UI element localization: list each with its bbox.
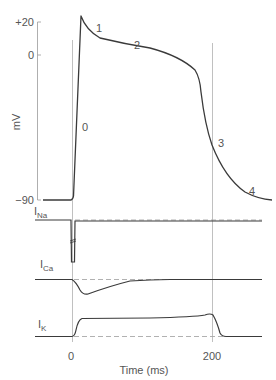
ica-trace bbox=[35, 280, 262, 295]
phase-label-2: 2 bbox=[134, 39, 140, 51]
y-tick-plus20: +20 bbox=[15, 16, 34, 28]
ik-label: IK bbox=[38, 318, 47, 333]
ina-trace bbox=[35, 220, 262, 262]
action-potential-figure: +20 0 −90 mV 0 1 2 3 4 INa ICa IK 0 200 … bbox=[0, 0, 276, 380]
ica-label: ICa bbox=[40, 258, 54, 273]
voltage-axis bbox=[38, 22, 42, 200]
phase-label-0: 0 bbox=[82, 121, 88, 133]
y-tick-minus90: −90 bbox=[15, 194, 34, 206]
x-tick-200: 200 bbox=[203, 350, 221, 362]
y-tick-zero: 0 bbox=[28, 49, 34, 61]
ik-trace bbox=[35, 314, 262, 337]
phase-label-3: 3 bbox=[218, 137, 224, 149]
phase-label-4: 4 bbox=[249, 185, 255, 197]
x-axis-label: Time (ms) bbox=[119, 364, 168, 376]
x-tick-0: 0 bbox=[68, 350, 74, 362]
phase-label-1: 1 bbox=[96, 22, 102, 34]
ina-label: INa bbox=[34, 205, 48, 220]
y-axis-label: mV bbox=[10, 113, 22, 130]
action-potential-trace bbox=[43, 16, 272, 200]
